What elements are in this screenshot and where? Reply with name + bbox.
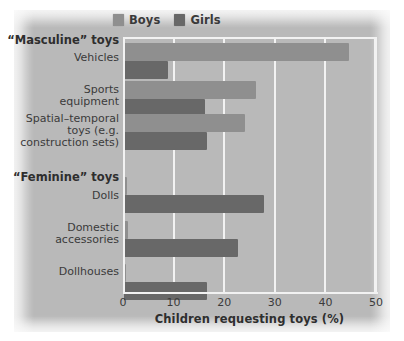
chart-legend: Boys Girls: [113, 13, 221, 27]
category-label-sports-line2: equipment: [7, 96, 119, 109]
category-label-domestic-line2: accessories: [7, 234, 119, 247]
category-label-dolls: Dolls: [7, 190, 119, 203]
x-tick-label-20: 20: [209, 296, 239, 309]
x-tick-label-40: 40: [310, 296, 340, 309]
bar-boys-2: [124, 114, 245, 132]
x-tick-label-0: 0: [108, 296, 138, 309]
y-axis-line: [123, 37, 125, 294]
gridline-30: [274, 37, 276, 292]
x-tick-label-10: 10: [159, 296, 189, 309]
bar-girls-0: [124, 61, 168, 79]
x-tick-label-50: 50: [361, 296, 391, 309]
plot-area: [123, 37, 376, 292]
legend-swatch-boys: [113, 14, 124, 26]
category-axis-labels: “Masculine” toys Vehicles Sports equipme…: [5, 0, 119, 341]
legend-entry-boys: Boys: [113, 13, 160, 27]
bar-boys-0: [124, 43, 349, 61]
group-heading-masculine: “Masculine” toys: [7, 34, 119, 47]
chart-screenshot: Boys Girls “Masculine” toys Vehicles Spo…: [0, 0, 404, 341]
x-axis-title: Children requesting toys (%): [123, 312, 376, 326]
gridline-50: [375, 37, 377, 292]
bar-boys-1: [124, 81, 256, 99]
legend-label-girls: Girls: [190, 13, 220, 27]
x-axis-line: [123, 292, 378, 294]
legend-entry-girls: Girls: [174, 13, 220, 27]
gridline-40: [324, 37, 326, 292]
bar-girls-2: [124, 132, 207, 150]
category-label-vehicles: Vehicles: [7, 52, 119, 65]
group-heading-feminine: “Feminine” toys: [7, 171, 119, 184]
bar-girls-4: [124, 239, 238, 257]
legend-swatch-girls: [174, 14, 185, 26]
category-label-dollhouses: Dollhouses: [7, 266, 119, 279]
x-tick-label-30: 30: [260, 296, 290, 309]
legend-label-boys: Boys: [129, 13, 160, 27]
category-label-spatial-line3: construction sets): [7, 137, 119, 150]
bar-girls-3: [124, 195, 264, 213]
